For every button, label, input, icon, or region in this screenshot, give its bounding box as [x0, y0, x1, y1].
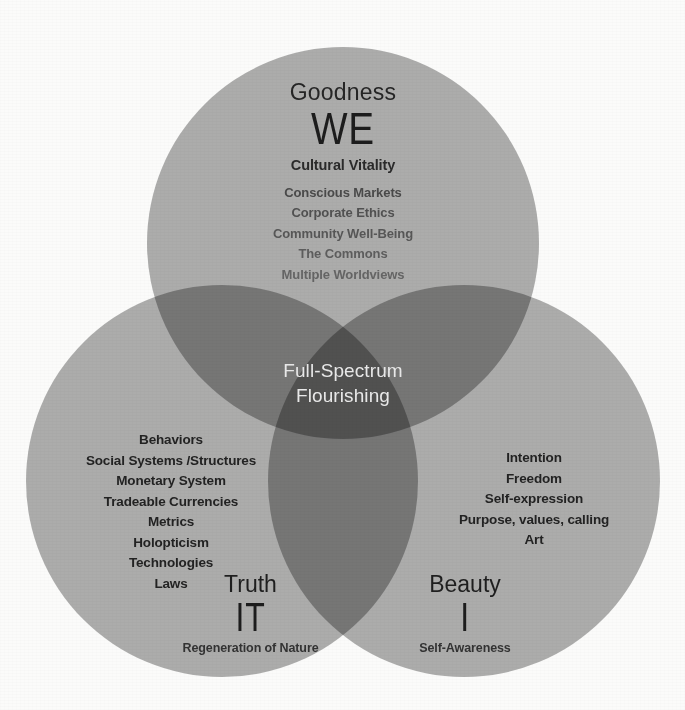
list-item: Freedom — [415, 469, 653, 490]
goodness-headline: Cultural Vitality — [193, 157, 493, 174]
list-item: Metrics — [55, 512, 287, 533]
truth-caption: Regeneration of Nature — [148, 641, 353, 655]
truth-label-group: Truth IT Regeneration of Nature — [148, 572, 353, 655]
goodness-label-group: Goodness WE Cultural Vitality Conscious … — [193, 80, 493, 285]
list-item: Multiple Worldviews — [193, 265, 493, 286]
center-label-line-2: Flourishing — [238, 383, 448, 408]
list-item: Self-expression — [415, 489, 653, 510]
goodness-title: Goodness — [193, 80, 493, 105]
list-item: Holopticism — [55, 533, 287, 554]
list-item: Community Well-Being — [193, 224, 493, 245]
list-item: Art — [415, 530, 653, 551]
beauty-caption: Self-Awareness — [370, 641, 560, 655]
list-item: Purpose, values, calling — [415, 510, 653, 531]
beauty-label-group: Beauty I Self-Awareness — [370, 572, 560, 655]
list-item: Social Systems /Structures — [55, 451, 287, 472]
center-label-line-1: Full-Spectrum — [238, 358, 448, 383]
beauty-title: Beauty — [370, 572, 560, 596]
venn-diagram-page: Goodness WE Cultural Vitality Conscious … — [0, 0, 685, 710]
goodness-pronoun: WE — [211, 107, 475, 151]
list-item: Behaviors — [55, 430, 287, 451]
center-label-group: Full-Spectrum Flourishing — [238, 358, 448, 408]
list-item: Monetary System — [55, 471, 287, 492]
truth-item-list: Behaviors Social Systems /Structures Mon… — [55, 430, 287, 594]
beauty-item-list: Intention Freedom Self-expression Purpos… — [415, 448, 653, 551]
beauty-pronoun: I — [389, 597, 541, 637]
list-item: Intention — [415, 448, 653, 469]
list-item: Corporate Ethics — [193, 203, 493, 224]
list-item: Tradeable Currencies — [55, 492, 287, 513]
truth-title: Truth — [148, 572, 353, 596]
list-item: Conscious Markets — [193, 183, 493, 204]
truth-pronoun: IT — [169, 597, 333, 637]
goodness-item-list: Conscious Markets Corporate Ethics Commu… — [193, 183, 493, 286]
list-item: The Commons — [193, 244, 493, 265]
